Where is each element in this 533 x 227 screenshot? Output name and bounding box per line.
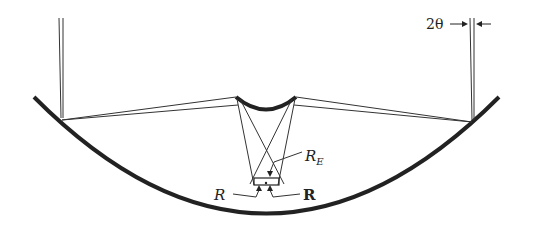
re-arrowhead	[267, 171, 273, 177]
ray-secondary-to-focus-2	[240, 99, 284, 184]
r-bold-label: R	[303, 186, 316, 204]
ray-primary-to-secondary-left-a	[62, 97, 236, 120]
incoming-ray-right-a	[470, 18, 472, 120]
angle-arrow-right-head	[476, 21, 482, 27]
angle-label: 2θ	[426, 16, 443, 32]
r-italic-label: R	[213, 186, 225, 204]
ray-secondary-to-focus-1	[237, 99, 254, 185]
ray-primary-to-secondary-right-a	[296, 97, 472, 122]
r-italic-pointer	[233, 190, 259, 197]
angle-arrow-left-head	[462, 21, 468, 27]
r-italic-arrowhead	[256, 185, 262, 191]
r-bold-pointer	[270, 190, 300, 197]
ray-primary-to-secondary-left-b	[62, 105, 238, 120]
r-bold-arrowhead	[267, 185, 273, 191]
incoming-ray-left-a	[59, 18, 61, 118]
focal-point	[265, 182, 267, 184]
re-pointer	[270, 152, 302, 172]
cassegrain-diagram: RE R R 2θ	[0, 0, 533, 227]
ray-secondary-to-focus-3	[278, 99, 295, 185]
ray-primary-to-secondary-right-b	[294, 105, 472, 122]
re-label: RE	[304, 147, 324, 167]
